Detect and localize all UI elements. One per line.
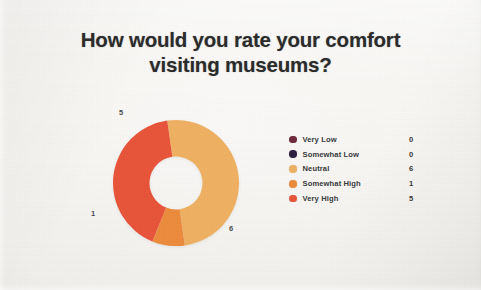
title-line-2: visiting museums? (0, 52, 481, 77)
donut-chart: 5 1 6 (110, 117, 242, 249)
legend-item[interactable]: Neutral6 (289, 162, 419, 177)
legend-color-swatch-icon (289, 195, 297, 203)
legend-color-swatch-icon (289, 150, 297, 158)
legend-item-value: 0 (403, 150, 419, 159)
legend-item-value: 6 (403, 164, 419, 173)
legend-item-value: 1 (403, 179, 419, 188)
slice-label-very-high: 5 (119, 108, 123, 117)
slide-photo: How would you rate your comfort visiting… (0, 0, 481, 290)
legend-item-label: Very High (303, 194, 339, 203)
legend-color-swatch-icon (289, 180, 297, 188)
legend-item[interactable]: Very Low0 (289, 132, 419, 147)
slice-label-neutral: 6 (229, 224, 233, 233)
donut-chart-svg (110, 117, 242, 249)
slice-label-somewhat-high: 1 (91, 209, 95, 218)
legend-item[interactable]: Very High5 (289, 191, 419, 206)
legend-item-value: 5 (403, 194, 419, 203)
legend-item-label: Very Low (303, 135, 337, 144)
legend-color-swatch-icon (289, 165, 297, 173)
legend-item-value: 0 (403, 135, 419, 144)
legend-item-label: Somewhat Low (303, 150, 359, 159)
title-line-1: How would you rate your comfort (81, 28, 401, 51)
page-title: How would you rate your comfort visiting… (0, 27, 481, 77)
legend-item-label: Neutral (303, 164, 330, 173)
legend-item[interactable]: Somewhat Low0 (289, 147, 419, 162)
legend-item-label: Somewhat High (303, 179, 361, 188)
legend-color-swatch-icon (289, 136, 297, 144)
chart-legend: Very Low0Somewhat Low0Neutral6Somewhat H… (289, 132, 419, 206)
donut-slices (113, 120, 239, 246)
legend-item[interactable]: Somewhat High1 (289, 176, 419, 191)
